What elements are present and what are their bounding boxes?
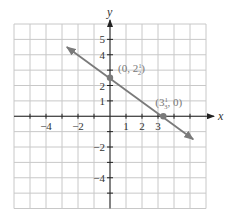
y-axis-label: y xyxy=(106,5,113,19)
x-tick-label: −4 xyxy=(40,120,52,132)
x-tick-label: 1 xyxy=(123,120,129,132)
y-tick-label: 5 xyxy=(100,33,106,45)
y-tick-label: 4 xyxy=(100,49,106,61)
y-tick-label: 2 xyxy=(100,80,106,92)
axes xyxy=(14,20,214,209)
x-tick-label: −2 xyxy=(72,120,84,132)
data-point xyxy=(107,75,113,81)
y-tick-label: 1 xyxy=(100,95,106,107)
point-label: (313, 0) xyxy=(155,96,182,111)
x-tick-label: 2 xyxy=(139,120,145,132)
x-axis-label: x xyxy=(217,109,224,123)
point-label: (0, 212) xyxy=(118,62,145,77)
y-tick-label: −4 xyxy=(93,172,105,184)
data-point xyxy=(160,113,166,119)
coordinate-plane: −4−21235421−2−4 (0, 212)(313, 0) x y xyxy=(0,0,228,219)
x-tick-label: 3 xyxy=(155,120,161,132)
tick-labels: −4−21235421−2−4 xyxy=(40,33,161,183)
y-tick-label: −2 xyxy=(93,141,105,153)
